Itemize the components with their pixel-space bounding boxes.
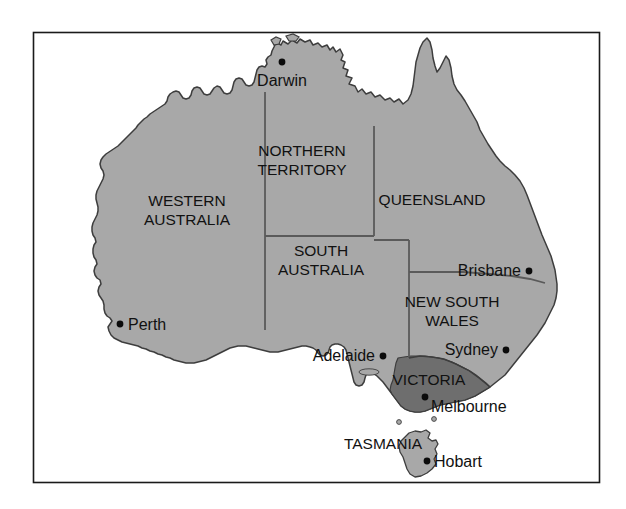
city-dot-adelaide xyxy=(380,353,387,360)
kangaroo-island-shape xyxy=(359,369,379,375)
flinders-island-shape xyxy=(432,417,437,422)
city-dot-darwin xyxy=(279,59,286,66)
state-label-queensland-line1: QUEENSLAND xyxy=(379,191,486,208)
city-dot-perth xyxy=(117,321,124,328)
australia-map-figure: WESTERN AUSTRALIA NORTHERN TERRITORY QUE… xyxy=(0,0,626,509)
city-dot-hobart xyxy=(424,458,431,465)
state-label-victoria-line1: VICTORIA xyxy=(393,371,467,388)
state-label-queensland: QUEENSLAND xyxy=(379,191,486,208)
state-label-south-australia-line2: AUSTRALIA xyxy=(278,261,365,278)
state-label-new-south-wales-line1: NEW SOUTH xyxy=(405,293,500,310)
city-label-hobart: Hobart xyxy=(434,453,483,470)
city-label-perth: Perth xyxy=(128,316,166,333)
city-label-melbourne: Melbourne xyxy=(431,398,507,415)
state-label-western-australia-line1: WESTERN xyxy=(148,192,226,209)
state-label-victoria: VICTORIA xyxy=(393,371,467,388)
city-dot-melbourne xyxy=(422,394,429,401)
city-label-darwin: Darwin xyxy=(257,72,307,89)
state-label-tasmania: TASMANIA xyxy=(344,435,423,452)
king-island-shape xyxy=(397,420,402,425)
map-canvas: WESTERN AUSTRALIA NORTHERN TERRITORY QUE… xyxy=(0,0,626,509)
state-label-tasmania-line1: TASMANIA xyxy=(344,435,423,452)
state-label-western-australia-line2: AUSTRALIA xyxy=(144,211,231,228)
state-label-new-south-wales-line2: WALES xyxy=(425,312,479,329)
state-label-south-australia-line1: SOUTH xyxy=(294,242,348,259)
city-label-adelaide: Adelaide xyxy=(313,347,375,364)
city-dot-brisbane xyxy=(526,268,533,275)
city-label-brisbane: Brisbane xyxy=(458,262,521,279)
state-label-northern-territory-line2: TERRITORY xyxy=(258,161,347,178)
state-label-northern-territory-line1: NORTHERN xyxy=(258,142,346,159)
city-label-sydney: Sydney xyxy=(445,341,498,358)
city-dot-sydney xyxy=(503,347,510,354)
